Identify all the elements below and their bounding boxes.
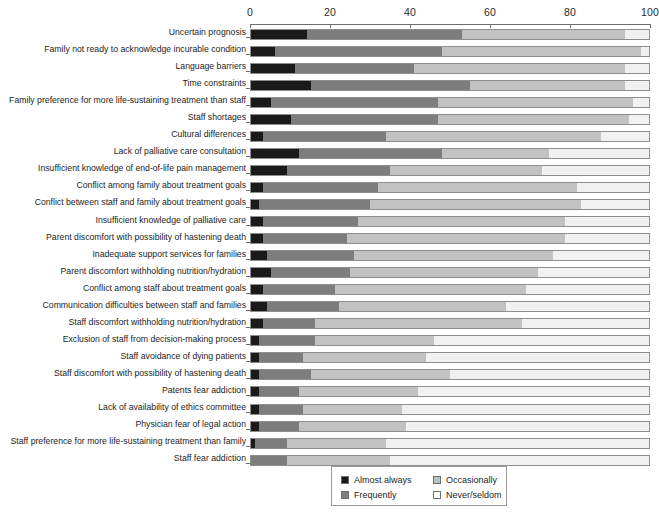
bar-segment bbox=[251, 183, 263, 192]
stacked-bar bbox=[250, 438, 650, 449]
category-label: Communication difficulties between staff… bbox=[0, 300, 246, 311]
legend-label: Frequently bbox=[354, 490, 397, 500]
chart-row: Parent discomfort with possibility of ha… bbox=[0, 231, 657, 248]
bar-segment bbox=[259, 370, 311, 379]
chart-row: Cultural differences bbox=[0, 128, 657, 145]
bar-segment bbox=[251, 405, 259, 414]
bar-segment bbox=[263, 285, 335, 294]
bar-segment bbox=[625, 30, 649, 39]
category-label: Patents fear addiction bbox=[0, 385, 246, 396]
bar-segment bbox=[339, 302, 506, 311]
stacked-bar bbox=[250, 369, 650, 380]
category-label: Inadequate support services for families bbox=[0, 249, 246, 260]
bar-segment bbox=[251, 217, 263, 226]
x-axis-line bbox=[250, 24, 650, 25]
stacked-bar bbox=[250, 250, 650, 261]
bar-segment bbox=[299, 387, 418, 396]
category-label: Lack of availability of ethics committee bbox=[0, 402, 246, 413]
chart-row: Staff fear addiction bbox=[0, 452, 657, 469]
bar-segment bbox=[251, 336, 259, 345]
category-label: Physician fear of legal action bbox=[0, 419, 246, 430]
stacked-bar bbox=[250, 301, 650, 312]
bar-segment bbox=[350, 268, 537, 277]
bar-segment bbox=[386, 439, 649, 448]
bar-segment bbox=[251, 200, 259, 209]
bar-segment bbox=[251, 64, 295, 73]
category-label: Staff avoidance of dying patients bbox=[0, 351, 246, 362]
chart-row: Staff discomfort with possibility of has… bbox=[0, 367, 657, 384]
category-label: Exclusion of staff from decision-making … bbox=[0, 334, 246, 345]
category-label: Insufficient knowledge of end-of-life pa… bbox=[0, 163, 246, 174]
bar-segment bbox=[271, 268, 351, 277]
bar-segment bbox=[315, 319, 522, 328]
bar-segment bbox=[251, 81, 311, 90]
bar-segment bbox=[263, 132, 386, 141]
bar-segment bbox=[442, 47, 641, 56]
legend-item: Frequently bbox=[341, 490, 433, 500]
bar-segment bbox=[263, 234, 347, 243]
bar-segment bbox=[442, 149, 549, 158]
chart-row: Staff discomfort withholding nutrition/h… bbox=[0, 316, 657, 333]
x-tick-label: 60 bbox=[484, 6, 496, 18]
bar-segment bbox=[526, 285, 649, 294]
stacked-bar bbox=[250, 318, 650, 329]
bar-segment bbox=[538, 268, 649, 277]
bar-segment bbox=[263, 319, 315, 328]
chart-row: Staff shortages bbox=[0, 111, 657, 128]
bar-segment bbox=[259, 387, 299, 396]
bar-segment bbox=[251, 132, 263, 141]
bar-segment bbox=[287, 456, 390, 465]
plot-area: 020406080100 Uncertain prognosisFamily n… bbox=[0, 0, 657, 462]
stacked-bar bbox=[250, 63, 650, 74]
bar-segment bbox=[271, 98, 438, 107]
bar-segment bbox=[522, 319, 649, 328]
category-label: Uncertain prognosis bbox=[0, 27, 246, 38]
bar-segment bbox=[251, 268, 271, 277]
chart-row: Uncertain prognosis bbox=[0, 26, 657, 43]
bar-segment bbox=[390, 456, 649, 465]
bar-segment bbox=[565, 234, 649, 243]
bar-segment bbox=[295, 64, 414, 73]
stacked-bar bbox=[250, 284, 650, 295]
category-label: Parent discomfort withholding nutrition/… bbox=[0, 266, 246, 277]
chart-row: Staff preference for more life-sustainin… bbox=[0, 435, 657, 452]
bar-segment bbox=[625, 81, 649, 90]
category-label: Conflict among family about treatment go… bbox=[0, 180, 246, 191]
chart-row: Insufficient knowledge of palliative car… bbox=[0, 214, 657, 231]
category-label: Conflict between staff and family about … bbox=[0, 197, 246, 208]
chart-row: Language barriers bbox=[0, 60, 657, 77]
chart-row: Time constraints bbox=[0, 77, 657, 94]
bar-segment bbox=[335, 285, 526, 294]
category-label: Staff fear addiction bbox=[0, 453, 246, 464]
bar-segment bbox=[287, 439, 387, 448]
bar-segment bbox=[299, 422, 406, 431]
legend-label: Never/seldom bbox=[446, 490, 502, 500]
bar-segment bbox=[470, 81, 625, 90]
bar-segment bbox=[259, 422, 299, 431]
bar-segment bbox=[251, 166, 287, 175]
stacked-bar bbox=[250, 233, 650, 244]
bar-segment bbox=[299, 149, 442, 158]
category-label: Time constraints bbox=[0, 78, 246, 89]
bar-segment bbox=[414, 64, 625, 73]
x-tick-label: 0 bbox=[247, 6, 253, 18]
bar-segment bbox=[287, 166, 390, 175]
category-label: Staff discomfort with possibility of has… bbox=[0, 368, 246, 379]
category-label: Conflict among staff about treatment goa… bbox=[0, 283, 246, 294]
category-label: Family preference for more life-sustaini… bbox=[0, 95, 246, 106]
bar-segment bbox=[251, 47, 275, 56]
chart-row: Patents fear addiction bbox=[0, 384, 657, 401]
category-label: Staff preference for more life-sustainin… bbox=[0, 436, 246, 447]
bar-segment bbox=[251, 370, 259, 379]
legend-swatch-icon bbox=[341, 476, 349, 484]
bar-segment bbox=[625, 64, 649, 73]
chart-row: Conflict among family about treatment go… bbox=[0, 179, 657, 196]
category-label: Language barriers bbox=[0, 61, 246, 72]
bar-segment bbox=[259, 405, 303, 414]
legend-item: Occasionally bbox=[433, 475, 506, 485]
bar-segment bbox=[577, 183, 649, 192]
bar-segment bbox=[251, 422, 259, 431]
bar-segment bbox=[581, 200, 649, 209]
stacked-bar bbox=[250, 216, 650, 227]
